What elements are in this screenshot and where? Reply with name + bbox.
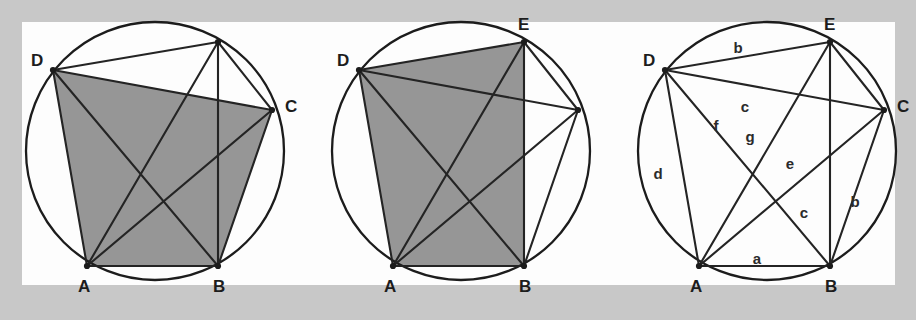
panel-3-vertex-dot-E: [827, 39, 833, 45]
panel-2-vertex-label-A: A: [384, 277, 396, 296]
panel-3-seg-ea-label: g: [745, 128, 754, 145]
panel-1-shaded-region: [53, 70, 272, 266]
panel-3-vertex-label-A: A: [690, 277, 702, 296]
panel-3-seg-dc-label: c: [741, 98, 749, 115]
panel-3-vertex-dot-A: [696, 263, 702, 269]
panel-3-chord-EC: [830, 42, 884, 110]
panel-1-vertex-dot-C: [269, 107, 275, 113]
panel-3-seg-db-label: f: [714, 117, 720, 134]
panel-3-seg-de-label: b: [733, 39, 742, 56]
panel-2-vertex-label-D: D: [337, 51, 349, 70]
panel-3-seg-ac-label: e: [786, 155, 794, 172]
panel-3-vertex-label-D: D: [643, 51, 655, 70]
panel-1-vertex-label-B: B: [213, 277, 225, 296]
panel-3-chord-EA: [699, 42, 830, 266]
panel-3-seg-ab-label: a: [753, 250, 762, 267]
panel-3-seg-eb-label: c: [800, 204, 808, 221]
cyclic-polygon-shaded-abcd: ABCD: [26, 22, 297, 296]
panel-3-vertex-label-E: E: [824, 15, 835, 34]
panel-3-vertex-dot-B: [827, 263, 833, 269]
panel-2-vertex-dot-B: [521, 263, 527, 269]
panel-2-vertex-dot-C: [575, 107, 581, 113]
panel-1-vertex-dot-B: [215, 263, 221, 269]
panel-2-vertex-dot-D: [356, 67, 362, 73]
panel-1-chord-EC: [218, 42, 272, 110]
panel-1-vertex-label-C: C: [285, 97, 297, 116]
panel-3-seg-da-label: d: [653, 165, 662, 182]
panel-2-vertex-label-E: E: [518, 15, 529, 34]
panel-2-vertex-label-B: B: [519, 277, 531, 296]
panel-3-seg-bc-label: b: [850, 193, 859, 210]
panel-1-vertex-dot-D: [50, 67, 56, 73]
panel-3-chord-DC: [665, 70, 884, 110]
panel-1-vertex-dot-E: [215, 39, 221, 45]
panel-3-vertex-dot-C: [881, 107, 887, 113]
cyclic-polygon-shaded-abed: ABED: [332, 15, 590, 296]
cyclic-polygon-labeled-segments: ABCEDbcfgdecba: [638, 15, 909, 296]
geometry-figure: ABCDABEDABCEDbcfgdecba: [0, 0, 916, 320]
panel-1-vertex-label-D: D: [31, 51, 43, 70]
panel-2-chord-EC: [524, 42, 578, 110]
panel-2-shaded-region: [359, 42, 524, 266]
panel-2-vertex-dot-E: [521, 39, 527, 45]
panel-3-chord-DE: [665, 42, 830, 70]
panel-2-vertex-dot-A: [390, 263, 396, 269]
diagram-canvas: ABCDABEDABCEDbcfgdecba: [0, 0, 916, 320]
panel-1-vertex-label-A: A: [78, 277, 90, 296]
panel-1-vertex-dot-A: [84, 263, 90, 269]
panel-3-vertex-dot-D: [662, 67, 668, 73]
panel-3-vertex-label-B: B: [825, 277, 837, 296]
panel-1-chord-DE: [53, 42, 218, 70]
panel-3-vertex-label-C: C: [897, 97, 909, 116]
